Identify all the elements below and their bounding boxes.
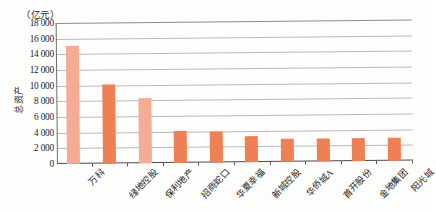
bar xyxy=(102,85,116,164)
gridline xyxy=(56,35,412,39)
x-tick-label: 首开股份 xyxy=(340,166,375,201)
x-axis-category-labels: 万科绿地控股保利地产招商蛇口华夏幸福新城控股华侨城A首开股份金地集团阳光城 xyxy=(57,166,413,213)
bar xyxy=(352,138,365,161)
x-tick-label: 华侨城A xyxy=(303,166,336,199)
bar xyxy=(281,139,294,162)
gridlines xyxy=(56,20,412,23)
x-tick-label: 金地集团 xyxy=(375,166,410,201)
x-tick-label: 绿地控股 xyxy=(126,166,161,201)
bar xyxy=(209,131,222,162)
x-tick-mark xyxy=(341,161,342,164)
x-tick-label: 新城控股 xyxy=(268,166,303,201)
bar xyxy=(138,98,152,164)
gridline xyxy=(56,20,412,24)
bar xyxy=(316,138,329,162)
x-tick-label: 华夏幸福 xyxy=(233,166,268,201)
gridline xyxy=(56,51,412,55)
bar xyxy=(174,130,187,163)
bar xyxy=(387,138,400,161)
x-tick-mark xyxy=(412,161,413,164)
bar xyxy=(66,46,80,164)
x-tick-mark xyxy=(270,162,271,165)
x-tick-mark xyxy=(305,162,306,165)
x-tick-label: 万科 xyxy=(85,166,107,188)
x-tick-label: 保利地产 xyxy=(162,166,197,201)
y-axis-line xyxy=(56,23,58,164)
x-tick-mark xyxy=(376,161,377,164)
bar xyxy=(245,136,258,162)
plot-area xyxy=(56,20,413,164)
x-tick-mark xyxy=(234,162,235,165)
x-tick-label: 招商蛇口 xyxy=(197,166,232,201)
gridline xyxy=(56,67,412,71)
